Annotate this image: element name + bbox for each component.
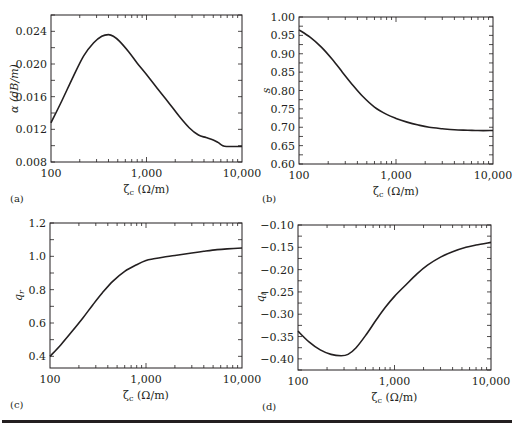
panel-a: 1001,00010,000 0.0080.0120.0160.0200.024… [8, 15, 261, 204]
x-tick-label: 1,000 [131, 167, 163, 180]
y-ticks: 0.600.650.700.750.800.850.900.951.00 [271, 11, 494, 171]
x-ticks: 1001,00010,000 [40, 223, 262, 386]
y-axis-label: s [260, 87, 273, 93]
data-line [299, 30, 493, 131]
panel-label: (c) [10, 399, 24, 410]
panel-c: 1001,00010,000 0.40.60.81.01.2 ζc (Ω/m) … [10, 217, 261, 410]
y-ticks: 0.40.60.81.01.2 [29, 217, 243, 363]
y-tick-label: 0.012 [16, 123, 48, 136]
panel-b: 1001,00010,000 0.600.650.700.750.800.850… [260, 11, 512, 204]
x-axis-label: ζc (Ω/m) [372, 391, 418, 405]
x-tick-label: 10,000 [474, 169, 513, 182]
y-tick-label: −0.30 [260, 308, 294, 321]
y-tick-label: −0.20 [260, 264, 294, 277]
y-tick-label: −0.15 [260, 241, 294, 254]
y-tick-label: −0.10 [260, 219, 294, 232]
y-axis-label: qi [254, 292, 268, 302]
x-tick-label: 10,000 [223, 167, 262, 180]
x-tick-label: 1,000 [379, 375, 411, 388]
y-tick-label: 1.0 [29, 250, 47, 263]
y-tick-label: −0.40 [260, 353, 294, 366]
x-tick-label: 10,000 [223, 373, 262, 386]
y-tick-label: 0.65 [271, 140, 296, 153]
x-tick-label: 100 [288, 375, 309, 388]
x-axis-label: ζc (Ω/m) [123, 389, 169, 403]
figure: 1001,00010,000 0.0080.0120.0160.0200.024… [0, 0, 518, 429]
x-tick-label: 10,000 [472, 375, 511, 388]
x-tick-label: 1,000 [130, 373, 162, 386]
bottom-rule [2, 420, 512, 423]
y-ticks: −0.40−0.35−0.30−0.25−0.20−0.15−0.10 [260, 219, 491, 370]
y-tick-label: 0.024 [16, 25, 48, 38]
data-line [298, 242, 491, 355]
y-tick-label: 0.008 [16, 156, 48, 169]
x-tick-label: 1,000 [380, 169, 412, 182]
data-line [50, 248, 242, 356]
x-ticks: 1001,00010,000 [289, 17, 513, 182]
y-ticks: 0.0080.0120.0160.0200.024 [16, 15, 243, 169]
x-axis-label: ζc (Ω/m) [124, 183, 170, 197]
y-tick-label: 0.4 [29, 350, 47, 363]
y-axis-label: α (dB/m) [8, 64, 21, 113]
y-tick-label: −0.35 [260, 331, 294, 344]
data-line [51, 35, 242, 147]
y-tick-label: 0.60 [271, 158, 296, 171]
y-tick-label: 0.95 [271, 29, 296, 42]
y-tick-label: 0.6 [29, 317, 47, 330]
y-tick-label: 0.80 [271, 85, 296, 98]
panel-label: (d) [262, 401, 276, 412]
x-ticks: 1001,00010,000 [41, 15, 262, 180]
panel-label: (b) [262, 193, 276, 204]
panel-d: 1001,00010,000 −0.40−0.35−0.30−0.25−0.20… [254, 219, 510, 412]
panel-label: (a) [10, 193, 24, 204]
y-tick-label: 0.8 [29, 284, 47, 297]
plot-frame [50, 223, 242, 368]
y-tick-label: 0.70 [271, 121, 296, 134]
y-tick-label: 1.2 [29, 217, 47, 230]
y-tick-label: 1.00 [271, 11, 296, 24]
y-tick-label: 0.85 [271, 66, 296, 79]
y-tick-label: 0.90 [271, 48, 296, 61]
x-ticks: 1001,00010,000 [288, 225, 511, 388]
y-axis-label: qr [12, 289, 26, 301]
x-axis-label: ζc (Ω/m) [373, 185, 419, 199]
x-tick-label: 100 [40, 373, 61, 386]
y-tick-label: 0.75 [271, 103, 296, 116]
plot-frame [299, 17, 493, 164]
